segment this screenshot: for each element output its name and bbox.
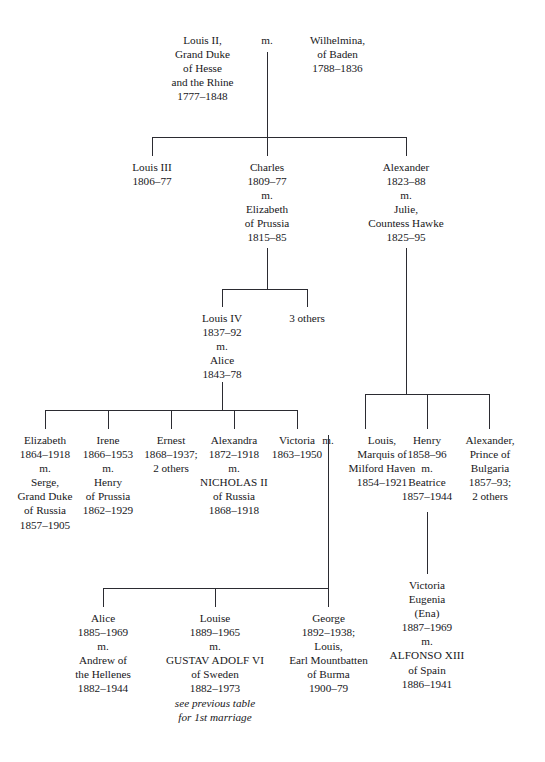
person-charles: Charles 1809–77 m. Elizabeth of Prussia … xyxy=(212,160,322,245)
spouse-detail-line: of Spain xyxy=(370,663,484,677)
connector-drop-irene xyxy=(108,410,109,429)
spouse-name-line: Andrew of xyxy=(57,653,149,667)
marriage-marker: m. xyxy=(370,634,484,648)
person-name-line: Eugenia xyxy=(370,592,484,606)
person-victoria-eugenia: Victoria Eugenia (Ena) 1887–1969 m. ALFO… xyxy=(370,578,484,691)
person-dates-line: 1892–1938; xyxy=(271,625,386,639)
person-name-line: Wilhelmina, xyxy=(275,33,400,47)
person-alexander-bulgaria: Alexander, Prince of Bulgaria 1857–93; 2… xyxy=(449,433,531,503)
person-detail-line: and the Rhine xyxy=(140,75,265,89)
person-detail-line: Bulgaria xyxy=(449,461,531,475)
person-alice-battenberg: Alice 1885–1969 m. Andrew of the Hellene… xyxy=(57,611,149,696)
connector-vertical-gen1 xyxy=(267,52,268,138)
spouse-dates-line: 1862–1929 xyxy=(64,503,152,517)
marriage-marker: m. xyxy=(212,188,322,202)
connector-drop-alice xyxy=(103,588,104,607)
connector-drop-louis-milford xyxy=(365,394,366,429)
spouse-detail-line: the Hellenes xyxy=(57,667,149,681)
marriage-marker: m. xyxy=(185,461,283,475)
spouse-detail-line: Countess Hawke xyxy=(346,216,466,230)
person-3-others: 3 others xyxy=(262,311,352,325)
person-name-line: Louis II, xyxy=(140,33,265,47)
person-name-line: Alexander, xyxy=(449,433,531,447)
sibling-count-line: 2 others xyxy=(449,489,531,503)
spouse-detail-line: of Russia xyxy=(185,489,283,503)
person-dates-line: 1885–1969 xyxy=(57,625,149,639)
connector-drop-charles xyxy=(267,137,268,156)
spouse-dates-line: 1815–85 xyxy=(212,230,322,244)
person-name-line: Louis III xyxy=(102,160,202,174)
connector-vertical-louis-iv xyxy=(222,382,223,411)
person-dates-line: 1863–1950 xyxy=(255,447,339,461)
spouse-name-line: ALFONSO XIII xyxy=(370,648,484,662)
person-name-line: Alice xyxy=(57,611,149,625)
person-name-line: Louis IV xyxy=(177,311,267,325)
person-wilhelmina: Wilhelmina, of Baden 1788–1836 xyxy=(275,33,400,75)
person-detail-line: of Burma xyxy=(271,667,386,681)
person-detail-line: of Baden xyxy=(275,47,400,61)
spouse-name-line: Henry xyxy=(64,475,152,489)
connector-drop-george xyxy=(328,588,329,607)
spouse-name-line: Elizabeth xyxy=(212,202,322,216)
person-dates-line: 1889–1965 xyxy=(148,625,282,639)
person-dates-line: 1900–79 xyxy=(271,681,386,695)
spouse-detail-line: of Sweden xyxy=(148,667,282,681)
connector-drop-alexander xyxy=(406,137,407,156)
person-louise: Louise 1889–1965 m. GUSTAV ADOLF VI of S… xyxy=(148,611,282,724)
spouse-dates-line: 1882–1944 xyxy=(57,681,149,695)
person-dates-line: 1823–88 xyxy=(346,174,466,188)
person-detail-line: Prince of xyxy=(449,447,531,461)
sibling-count-line: 3 others xyxy=(262,311,352,325)
connector-horizontal-gen5 xyxy=(103,588,329,589)
person-dates-line: 1806–77 xyxy=(102,174,202,188)
connector-drop-alexander-bulgaria xyxy=(489,394,490,429)
person-detail-line: of Hesse xyxy=(140,61,265,75)
connector-vertical-victoria-louis xyxy=(328,435,329,588)
connector-drop-henry xyxy=(427,394,428,429)
connector-drop-victoria xyxy=(297,410,298,429)
connector-vertical-charles xyxy=(267,248,268,290)
spouse-dates-line: 1882–1973 xyxy=(148,681,282,695)
marriage-marker: m. xyxy=(148,639,282,653)
spouse-name-line: Alice xyxy=(177,353,267,367)
spouse-detail-line: of Prussia xyxy=(212,216,322,230)
person-name-line: Louis, xyxy=(271,639,386,653)
person-dates-line: 1887–1969 xyxy=(370,620,484,634)
person-dates-line: 1777–1848 xyxy=(140,89,265,103)
person-dates-line: 1788–1836 xyxy=(275,61,400,75)
marriage-marker: m. xyxy=(57,639,149,653)
connector-drop-elizabeth xyxy=(45,410,46,429)
footnote-line: for 1st marriage xyxy=(148,710,282,724)
marriage-marker: m. xyxy=(346,188,466,202)
person-nickname-line: (Ena) xyxy=(370,606,484,620)
person-name-line: Louise xyxy=(148,611,282,625)
family-tree-diagram: Louis II, Grand Duke of Hesse and the Rh… xyxy=(0,0,545,762)
person-george: George 1892–1938; Louis, Earl Mountbatte… xyxy=(271,611,386,696)
spouse-name-line: Julie, xyxy=(346,202,466,216)
connector-drop-alexandra xyxy=(234,410,235,429)
marriage-marker: m. xyxy=(177,339,267,353)
person-detail-line: Grand Duke xyxy=(140,47,265,61)
spouse-dates-line: 1825–95 xyxy=(346,230,466,244)
person-louis-iv: Louis IV 1837–92 m. Alice 1843–78 xyxy=(177,311,267,381)
person-name-line: George xyxy=(271,611,386,625)
connector-horizontal-gen3 xyxy=(222,289,308,290)
connector-drop-3-others xyxy=(307,289,308,307)
connector-drop-ernest xyxy=(171,410,172,429)
spouse-name-line: GUSTAV ADOLF VI xyxy=(148,653,282,667)
connector-drop-louise xyxy=(215,588,216,607)
person-dates-line: 1857–93; xyxy=(449,475,531,489)
connector-drop-louis-iv xyxy=(222,289,223,307)
spouse-name-line: NICHOLAS II xyxy=(185,475,283,489)
person-name-line: Alexander xyxy=(346,160,466,174)
connector-horizontal-gen2 xyxy=(152,137,407,138)
spouse-dates-line: 1843–78 xyxy=(177,367,267,381)
spouse-dates-line: 1857–1905 xyxy=(1,518,89,532)
person-detail-line: Earl Mountbatten xyxy=(271,653,386,667)
person-dates-line: 1837–92 xyxy=(177,325,267,339)
person-alexander: Alexander 1823–88 m. Julie, Countess Haw… xyxy=(346,160,466,245)
person-louis-iii: Louis III 1806–77 xyxy=(102,160,202,188)
connector-drop-louis-iii xyxy=(152,137,153,156)
connector-vertical-alexander xyxy=(406,248,407,394)
person-name-line: Charles xyxy=(212,160,322,174)
